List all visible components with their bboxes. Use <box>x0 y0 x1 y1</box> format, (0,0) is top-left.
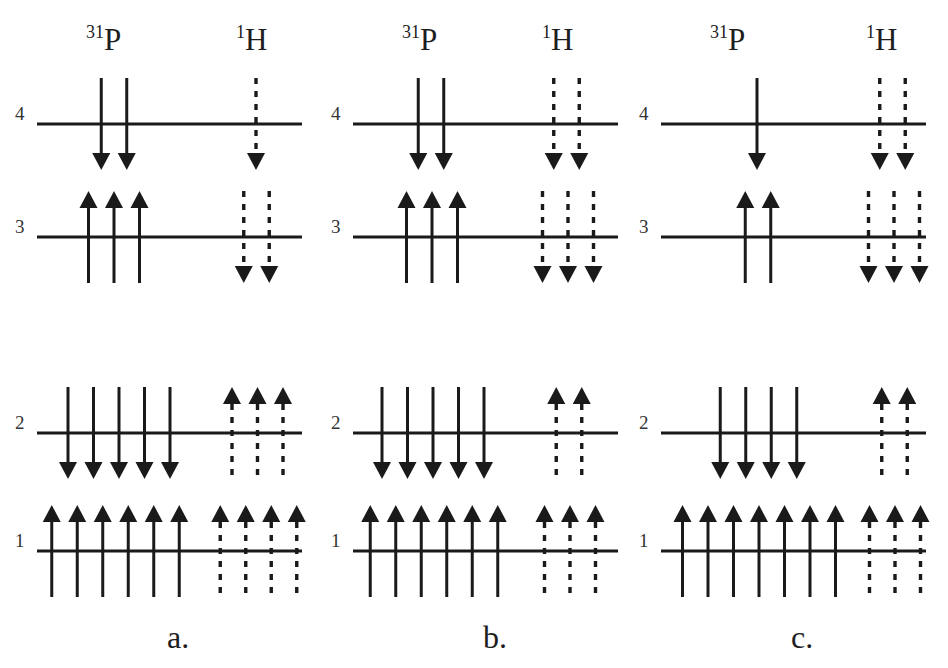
arrowhead-down-icon <box>118 153 136 170</box>
panel-c: 31P1H4321c. <box>639 22 930 655</box>
arrowhead-up-icon <box>725 505 743 522</box>
level-number: 2 <box>331 412 341 433</box>
mass-number: 1 <box>866 22 875 42</box>
arrowhead-down-icon <box>559 266 577 283</box>
arrowhead-up-icon <box>237 505 255 522</box>
level-number: 2 <box>639 412 649 433</box>
level-number: 4 <box>331 103 341 124</box>
level-number: 3 <box>331 216 341 237</box>
arrowhead-down-icon <box>871 153 889 170</box>
p31-header: 31P <box>402 22 437 57</box>
arrowhead-up-icon <box>412 505 430 522</box>
arrowhead-down-icon <box>711 462 729 479</box>
arrowhead-up-icon <box>94 505 112 522</box>
element-symbol: H <box>875 22 897 57</box>
arrowhead-up-icon <box>573 387 591 404</box>
arrowhead-down-icon <box>424 462 442 479</box>
arrowhead-down-icon <box>235 266 253 283</box>
level-number: 3 <box>639 216 649 237</box>
mass-number: 31 <box>710 22 728 42</box>
arrowhead-down-icon <box>136 462 154 479</box>
arrowhead-up-icon <box>387 505 405 522</box>
mass-number: 31 <box>86 22 104 42</box>
arrowhead-up-icon <box>873 387 891 404</box>
element-symbol: P <box>420 22 437 57</box>
arrowhead-up-icon <box>105 191 123 208</box>
arrowhead-up-icon <box>898 387 916 404</box>
arrowhead-down-icon <box>570 153 588 170</box>
arrowhead-up-icon <box>536 505 554 522</box>
panel-label: a. <box>167 619 189 655</box>
arrowhead-up-icon <box>361 505 379 522</box>
energy-level-diagram: 31P1H4321a.31P1H4321b.31P1H4321c. <box>0 0 948 668</box>
panel-a: 31P1H4321a. <box>15 22 306 655</box>
level-number: 3 <box>15 216 25 237</box>
arrowhead-up-icon <box>561 505 579 522</box>
arrowhead-down-icon <box>435 153 453 170</box>
arrowhead-up-icon <box>249 387 267 404</box>
mass-number: 31 <box>402 22 420 42</box>
arrowhead-up-icon <box>398 191 416 208</box>
energy-level-1: 1 <box>15 505 306 597</box>
arrowhead-up-icon <box>912 505 930 522</box>
energy-level-3: 3 <box>639 191 929 283</box>
level-number: 1 <box>639 530 649 551</box>
element-symbol: P <box>104 22 121 57</box>
arrowhead-up-icon <box>288 505 306 522</box>
energy-level-4: 4 <box>331 78 618 170</box>
energy-level-2: 2 <box>639 387 926 479</box>
arrowhead-down-icon <box>475 462 493 479</box>
energy-level-3: 3 <box>331 191 618 283</box>
level-number: 4 <box>639 103 649 124</box>
arrowhead-down-icon <box>409 153 427 170</box>
arrowhead-down-icon <box>450 462 468 479</box>
element-symbol: H <box>245 22 267 57</box>
arrowhead-up-icon <box>463 505 481 522</box>
arrowhead-up-icon <box>861 505 879 522</box>
energy-level-4: 4 <box>639 78 926 170</box>
arrowhead-down-icon <box>534 266 552 283</box>
arrowhead-up-icon <box>274 387 292 404</box>
arrowhead-down-icon <box>110 462 128 479</box>
arrowhead-up-icon <box>211 505 229 522</box>
h1-header: 1H <box>866 22 897 57</box>
energy-level-4: 4 <box>15 78 302 170</box>
arrowhead-up-icon <box>438 505 456 522</box>
arrowhead-up-icon <box>43 505 61 522</box>
arrowhead-down-icon <box>161 462 179 479</box>
arrowhead-up-icon <box>886 505 904 522</box>
p31-header: 31P <box>86 22 121 57</box>
arrowhead-up-icon <box>170 505 188 522</box>
arrowhead-up-icon <box>699 505 717 522</box>
arrowhead-up-icon <box>801 505 819 522</box>
arrowhead-down-icon <box>92 153 110 170</box>
arrowhead-up-icon <box>750 505 768 522</box>
arrowhead-down-icon <box>399 462 417 479</box>
arrowhead-down-icon <box>860 266 878 283</box>
element-symbol: H <box>551 22 573 57</box>
level-number: 2 <box>15 412 25 433</box>
arrowhead-up-icon <box>145 505 163 522</box>
energy-level-1: 1 <box>639 505 930 597</box>
arrowhead-down-icon <box>762 462 780 479</box>
arrowhead-up-icon <box>68 505 86 522</box>
arrowhead-down-icon <box>788 462 806 479</box>
panel-label: b. <box>483 619 507 655</box>
arrowhead-down-icon <box>748 153 766 170</box>
arrowhead-up-icon <box>131 191 149 208</box>
arrowhead-up-icon <box>119 505 137 522</box>
arrowhead-down-icon <box>59 462 77 479</box>
arrowhead-up-icon <box>80 191 98 208</box>
panel-label: c. <box>791 619 813 655</box>
arrowhead-up-icon <box>489 505 507 522</box>
level-number: 1 <box>15 530 25 551</box>
arrowhead-down-icon <box>373 462 391 479</box>
energy-level-2: 2 <box>331 387 618 479</box>
arrowhead-down-icon <box>885 266 903 283</box>
arrowhead-up-icon <box>827 505 845 522</box>
energy-level-3: 3 <box>15 191 302 283</box>
arrowhead-down-icon <box>545 153 563 170</box>
panel-b: 31P1H4321b. <box>331 22 618 655</box>
arrowhead-down-icon <box>260 266 278 283</box>
level-number: 4 <box>15 103 25 124</box>
